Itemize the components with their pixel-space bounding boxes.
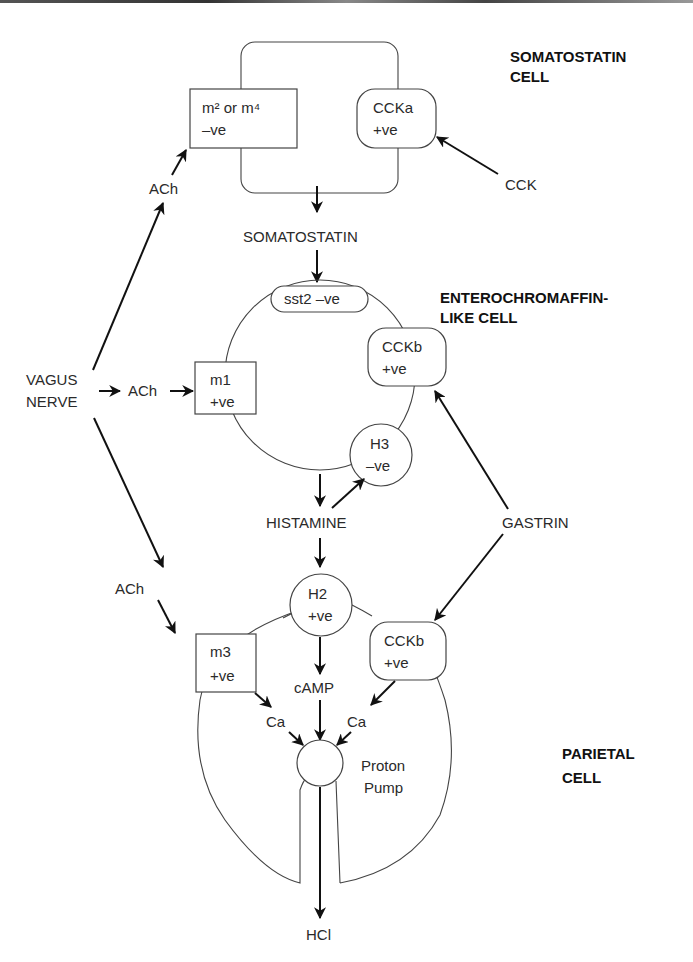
- svg-text:+ve: +ve: [308, 607, 333, 624]
- label-somatostatin: SOMATOSTATIN: [243, 228, 358, 245]
- svg-text:+ve: +ve: [210, 393, 235, 410]
- receptor-cckb-ecl: CCKb +ve: [368, 328, 446, 386]
- arrow-m3-to-ca: [255, 693, 271, 707]
- receptor-h3: H3 –ve: [350, 424, 412, 486]
- title-parietal-cell: PARIETAL CELL: [562, 745, 635, 786]
- svg-text:–ve: –ve: [202, 121, 226, 138]
- svg-text:PARIETAL: PARIETAL: [562, 745, 635, 762]
- svg-text:ENTEROCHROMAFFIN-: ENTEROCHROMAFFIN-: [440, 289, 608, 306]
- receptor-m3: m3 +ve: [196, 634, 256, 692]
- svg-text:sst2 –ve: sst2 –ve: [284, 290, 340, 307]
- svg-text:LIKE CELL: LIKE CELL: [440, 309, 518, 326]
- gastric-acid-regulation-diagram: SOMATOSTATIN CELL ENTEROCHROMAFFIN- LIKE…: [0, 0, 693, 962]
- arrow-gastrin-to-cckb-parietal: [435, 534, 503, 620]
- title-ecl-cell: ENTEROCHROMAFFIN- LIKE CELL: [440, 289, 608, 326]
- label-ca-right: Ca: [347, 713, 367, 730]
- arrow-ca-left-to-pump: [289, 732, 303, 745]
- arrow-ach-to-m3: [158, 600, 175, 633]
- title-somatostatin-cell: SOMATOSTATIN CELL: [510, 48, 626, 85]
- arrow-cck-to-ccka: [437, 137, 498, 174]
- svg-text:CCKa: CCKa: [373, 99, 414, 116]
- receptor-m2-m4: m² or m⁴ –ve: [190, 89, 297, 148]
- label-ach-mid: ACh: [128, 382, 157, 399]
- svg-text:+ve: +ve: [384, 654, 409, 671]
- svg-text:m² or m⁴: m² or m⁴: [202, 99, 260, 116]
- svg-text:m1: m1: [210, 371, 231, 388]
- receptor-ccka: CCKa +ve: [357, 89, 436, 148]
- svg-text:H2: H2: [308, 585, 327, 602]
- svg-text:+ve: +ve: [382, 360, 407, 377]
- arrow-histamine-to-h3: [332, 479, 364, 508]
- receptor-sst2: sst2 –ve: [271, 286, 368, 312]
- label-histamine: HISTAMINE: [266, 514, 347, 531]
- arrow-vagus-to-ach-low: [94, 418, 163, 567]
- svg-text:+ve: +ve: [373, 121, 398, 138]
- svg-text:CELL: CELL: [510, 68, 549, 85]
- receptor-cckb-parietal: CCKb +ve: [370, 622, 446, 680]
- svg-text:Proton: Proton: [361, 757, 405, 774]
- svg-text:CCKb: CCKb: [382, 338, 422, 355]
- label-ach-top: ACh: [149, 180, 178, 197]
- svg-text:CCKb: CCKb: [384, 632, 424, 649]
- arrow-gastrin-to-cckb-ecl: [435, 391, 508, 509]
- svg-text:+ve: +ve: [210, 667, 235, 684]
- arrow-cckb-to-ca: [371, 681, 395, 705]
- svg-text:m3: m3: [210, 643, 231, 660]
- receptor-h2: H2 +ve: [290, 574, 352, 636]
- label-ach-low: ACh: [115, 580, 144, 597]
- svg-text:VAGUS: VAGUS: [26, 371, 77, 388]
- label-proton-pump: Proton Pump: [361, 757, 405, 796]
- arrow-vagus-to-ach-top: [93, 203, 163, 370]
- label-camp: cAMP: [294, 679, 334, 696]
- label-ca-left: Ca: [266, 713, 286, 730]
- svg-text:–ve: –ve: [366, 457, 390, 474]
- label-vagus-nerve: VAGUS NERVE: [26, 371, 77, 410]
- label-hcl: HCl: [306, 926, 331, 943]
- proton-pump: [297, 740, 343, 786]
- svg-text:SOMATOSTATIN: SOMATOSTATIN: [510, 48, 626, 65]
- arrow-ach-to-m2m4: [172, 150, 186, 175]
- svg-text:H3: H3: [370, 435, 389, 452]
- label-gastrin: GASTRIN: [502, 514, 569, 531]
- arrow-ca-right-to-pump: [337, 732, 351, 745]
- label-cck: CCK: [505, 176, 537, 193]
- svg-text:CELL: CELL: [562, 769, 601, 786]
- svg-text:NERVE: NERVE: [26, 393, 77, 410]
- svg-text:Pump: Pump: [364, 779, 403, 796]
- receptor-m1: m1 +ve: [195, 362, 256, 414]
